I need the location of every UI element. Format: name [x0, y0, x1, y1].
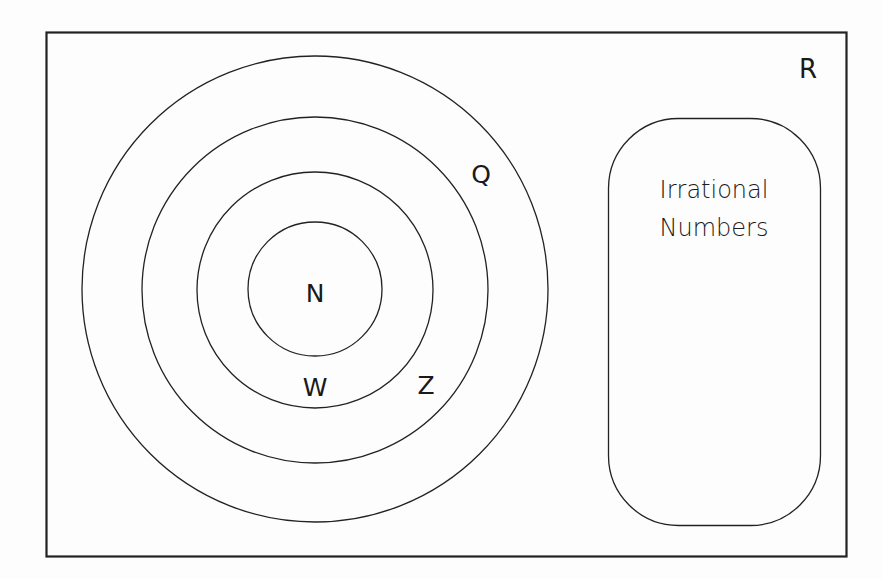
venn-diagram: R Q N W Z Irrational Numbers — [0, 0, 882, 579]
label-irrational-line1: Irrational — [660, 176, 769, 204]
label-irrational-line2: Numbers — [660, 214, 769, 242]
label-r: R — [799, 54, 817, 84]
real-numbers-universe — [47, 33, 847, 557]
label-n: N — [306, 279, 325, 308]
label-w: W — [303, 373, 328, 402]
label-q: Q — [471, 160, 491, 189]
label-z: Z — [417, 371, 434, 400]
